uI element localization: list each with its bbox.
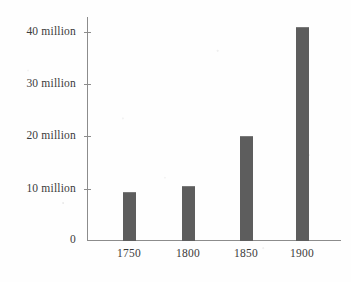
x-tick-label-1850: 1850 [216, 247, 276, 259]
bar-1850 [240, 136, 253, 241]
y-tick-mark-30 [84, 84, 91, 85]
x-tick-label-1900: 1900 [272, 247, 332, 259]
y-tick-mark-40 [84, 32, 91, 33]
y-tick-label-20: 20 million [0, 129, 76, 141]
y-tick-label-0: 0 [0, 233, 76, 245]
x-tick-label-1750: 1750 [99, 247, 159, 259]
chart-figure: 40 million 30 million 20 million 10 mill… [0, 0, 351, 282]
x-tick-label-1800: 1800 [158, 247, 218, 259]
y-tick-mark-10 [84, 189, 91, 190]
bar-1750 [123, 192, 136, 241]
y-tick-label-20-wrap: 20 million [0, 129, 76, 143]
bar-1800 [182, 186, 195, 241]
bar-1900 [296, 27, 309, 241]
y-tick-label-40: 40 million [0, 25, 76, 37]
y-tick-label-30-wrap: 30 million [0, 77, 76, 91]
y-tick-label-10: 10 million [0, 182, 76, 194]
y-tick-label-0-wrap: 0 [0, 233, 76, 247]
y-tick-label-30: 30 million [0, 77, 76, 89]
y-tick-label-40-wrap: 40 million [0, 25, 76, 39]
y-tick-label-10-wrap: 10 million [0, 182, 76, 196]
y-tick-mark-20 [84, 136, 91, 137]
y-axis-line [87, 17, 88, 241]
